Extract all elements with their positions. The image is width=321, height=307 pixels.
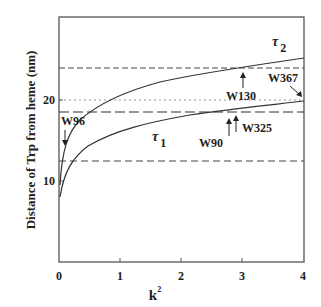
x-tick-label: 3 — [239, 269, 245, 283]
y-tick-label: 10 — [43, 174, 55, 188]
plot-frame — [59, 17, 304, 262]
w130-label: W130 — [226, 89, 256, 103]
tau1-label: τ1 — [152, 129, 166, 150]
tau2-label: τ2 — [272, 34, 286, 55]
y-axis-label: Distance of Trp from heme (nm) — [23, 51, 38, 230]
w367-label: W367 — [268, 71, 298, 85]
curve-tau1 — [60, 101, 304, 197]
x-tick-label: 1 — [117, 269, 123, 283]
w90-arrow-head — [226, 118, 232, 124]
w325-arrow-head — [233, 115, 239, 121]
w367-arrow — [290, 86, 299, 94]
w130-arrow-head — [240, 72, 246, 78]
chart: 0 1 2 3 4 20 10 k2 Distance of Trp from … — [0, 0, 321, 307]
x-tick-label: 4 — [300, 269, 306, 283]
w325-label: W325 — [242, 121, 272, 135]
w96-label: W96 — [61, 114, 85, 128]
x-tick-label: 2 — [178, 269, 184, 283]
y-tick-label: 20 — [43, 93, 55, 107]
x-axis-label: k2 — [149, 285, 161, 303]
x-tick-label: 0 — [56, 269, 62, 283]
w90-label: W90 — [199, 136, 223, 150]
